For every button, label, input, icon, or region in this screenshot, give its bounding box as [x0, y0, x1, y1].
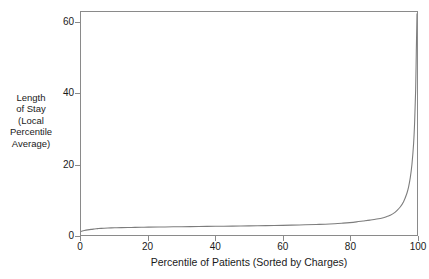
x-tick-text: 60 [268, 241, 298, 253]
x-tick-label: 20 [133, 241, 163, 253]
x-tick-label: 40 [200, 241, 230, 253]
x-tick-label: 100 [403, 241, 429, 253]
series-path-length-of-stay [81, 14, 417, 232]
x-tick-mark [350, 236, 351, 241]
x-tick-label: 0 [65, 241, 95, 253]
y-axis-label: Length of Stay (Local Percentile Average… [2, 92, 60, 149]
y-axis-label-line-2: of Stay [2, 103, 60, 114]
y-tick-text: 60 [54, 17, 74, 27]
y-tick-label: 40 [54, 88, 74, 98]
y-axis-label-line-5: Average) [2, 138, 60, 149]
y-axis-label-line-4: Percentile [2, 126, 60, 137]
x-tick-mark [80, 236, 81, 241]
x-tick-mark [215, 236, 216, 241]
y-tick-text: 20 [54, 160, 74, 170]
x-tick-mark [148, 236, 149, 241]
x-tick-text: 80 [335, 241, 365, 253]
data-line-series [81, 12, 417, 235]
x-tick-label: 60 [268, 241, 298, 253]
x-tick-text: 0 [65, 241, 95, 253]
y-tick-label: 60 [54, 17, 74, 27]
x-tick-text: 40 [200, 241, 230, 253]
x-tick-text: 20 [133, 241, 163, 253]
y-tick-text: 40 [54, 88, 74, 98]
y-tick-text: 0 [54, 231, 74, 241]
y-tick-label: 20 [54, 160, 74, 170]
y-axis-label-line-1: Length [2, 92, 60, 103]
y-tick-label: 0 [54, 231, 74, 241]
chart-figure: Length of Stay (Local Percentile Average… [0, 0, 429, 279]
x-tick-mark [418, 236, 419, 241]
plot-area [80, 11, 418, 236]
x-tick-text: 100 [403, 241, 429, 253]
x-axis-label: Percentile of Patients (Sorted by Charge… [80, 256, 418, 269]
x-tick-label: 80 [335, 241, 365, 253]
y-axis-label-line-3: (Local [2, 115, 60, 126]
x-tick-mark [283, 236, 284, 241]
